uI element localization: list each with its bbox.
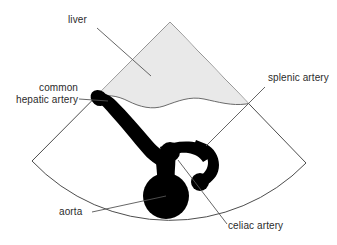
diagram-canvas: [0, 0, 337, 245]
ultrasound-diagram: liver common hepatic artery splenic arte…: [0, 0, 337, 245]
label-aorta: aorta: [59, 206, 82, 218]
celiac-junction: [160, 142, 180, 162]
label-common-hepatic-artery: common hepatic artery: [0, 82, 78, 105]
label-liver: liver: [68, 14, 87, 26]
label-celiac-artery: celiac artery: [228, 220, 283, 232]
label-splenic-artery: splenic artery: [268, 72, 329, 84]
